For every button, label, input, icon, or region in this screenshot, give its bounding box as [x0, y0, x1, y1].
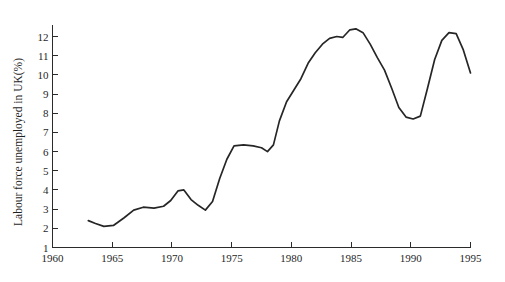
x-tick-label: 1975: [221, 252, 244, 264]
y-tick-label: 9: [43, 88, 49, 100]
x-tick-label: 1965: [101, 252, 124, 264]
y-tick-label: 12: [38, 31, 49, 43]
x-tick-label: 1970: [161, 252, 184, 264]
x-tick-label: 1980: [280, 252, 303, 264]
y-tick-label: 7: [43, 126, 49, 138]
chart-svg: 123456789101112 196019651970197519801985…: [0, 0, 505, 282]
x-tick-label: 1995: [460, 252, 483, 264]
y-axis-ticks: 123456789101112: [38, 31, 58, 254]
x-tick-label: 1990: [400, 252, 423, 264]
y-tick-label: 6: [43, 146, 49, 158]
unemployment-line-chart: 123456789101112 196019651970197519801985…: [0, 0, 505, 282]
y-axis-title: Labour force unemployed in UK(%): [12, 58, 25, 226]
y-tick-label: 8: [43, 107, 49, 119]
x-tick-label: 1985: [340, 252, 363, 264]
y-tick-label: 11: [38, 50, 49, 62]
unemployment-data-line: [88, 29, 470, 227]
x-tick-label: 1960: [42, 252, 65, 264]
y-tick-label: 4: [43, 184, 49, 196]
y-tick-label: 2: [43, 222, 49, 234]
x-axis-ticks: 19601965197019751980198519901995: [42, 242, 483, 264]
y-tick-label: 3: [43, 203, 49, 215]
y-tick-label: 5: [43, 165, 49, 177]
y-tick-label: 10: [38, 69, 50, 81]
